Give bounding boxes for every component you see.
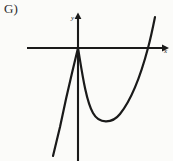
y-axis-label: y — [70, 14, 75, 22]
graph-canvas: y x — [0, 0, 173, 161]
parabola-curve — [78, 17, 155, 121]
steep-line-curve — [53, 48, 78, 156]
y-axis-arrow-icon — [75, 13, 82, 20]
figure-root: G) y x — [0, 0, 173, 161]
